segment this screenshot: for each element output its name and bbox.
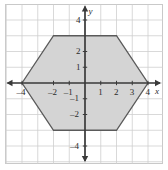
x-tick-label-neg4: –4 [17, 88, 26, 97]
x-tick-label-3: 3 [130, 88, 135, 97]
y-tick-label-2: 2 [76, 47, 81, 56]
y-axis-bottom-arrow [82, 156, 88, 162]
x-axis-left-arrow [7, 80, 13, 86]
y-tick-label-4: 4 [76, 16, 81, 25]
axes [7, 6, 162, 163]
y-tick-label-neg4: –4 [70, 142, 79, 151]
x-tick-label-1: 1 [98, 88, 103, 97]
y-axis-top-arrow [82, 6, 88, 12]
x-tick-label-4: 4 [146, 88, 151, 97]
y-tick-label-neg2: –2 [70, 110, 79, 119]
coordinate-plot-svg [0, 0, 168, 170]
coordinate-plane-figure: –4–2–11234421–1–2–4 x y [0, 0, 168, 170]
y-tick-label-1: 1 [76, 63, 81, 72]
x-axis-label: x [155, 87, 159, 96]
x-tick-label-2: 2 [114, 88, 119, 97]
y-axis-label: y [89, 7, 93, 16]
x-tick-label-neg2: –2 [48, 88, 57, 97]
y-tick-label-neg1: –1 [70, 94, 79, 103]
